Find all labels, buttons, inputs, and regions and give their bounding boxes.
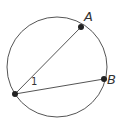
angle-1-label: 1 xyxy=(31,76,37,87)
inscribed-angle-diagram: A B 1 xyxy=(0,0,118,122)
vertex-point xyxy=(12,91,18,97)
point-a-label: A xyxy=(83,9,93,24)
point-a xyxy=(78,24,84,30)
chord-vertex-to-b xyxy=(15,79,104,94)
diagram-canvas: A B 1 xyxy=(0,0,118,122)
circle xyxy=(7,17,107,117)
chord-vertex-to-a xyxy=(15,27,81,94)
point-b-label: B xyxy=(107,72,116,87)
